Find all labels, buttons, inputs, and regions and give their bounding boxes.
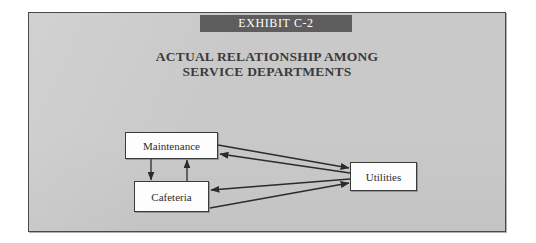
- exhibit-banner: EXHIBIT C-2: [200, 15, 352, 32]
- node-cafeteria[interactable]: Cafeteria: [134, 181, 209, 212]
- edge-cafeteria-to-utilities: [210, 183, 349, 208]
- relationship-diagram: Maintenance Cafeteria Utilities: [29, 13, 505, 231]
- node-utilities[interactable]: Utilities: [350, 162, 417, 191]
- diagram-connectors: [29, 13, 507, 233]
- page-title-line-1: ACTUAL RELATIONSHIP AMONG: [29, 49, 505, 64]
- page-title-line-2: SERVICE DEPARTMENTS: [29, 64, 505, 79]
- exhibit-frame: EXHIBIT C-2 ACTUAL RELATIONSHIP AMONG SE…: [28, 12, 506, 232]
- edge-utilities-to-cafeteria: [211, 179, 350, 190]
- node-maintenance[interactable]: Maintenance: [125, 132, 218, 159]
- page-title: ACTUAL RELATIONSHIP AMONG SERVICE DEPART…: [29, 49, 505, 79]
